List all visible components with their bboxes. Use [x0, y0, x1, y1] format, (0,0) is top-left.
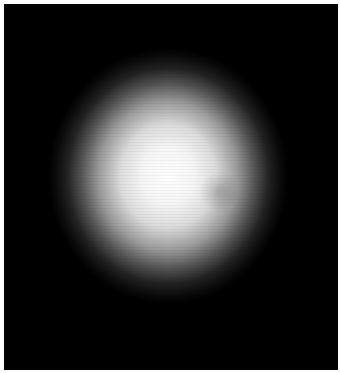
scan-texture [4, 4, 338, 370]
photo-frame [4, 4, 338, 370]
